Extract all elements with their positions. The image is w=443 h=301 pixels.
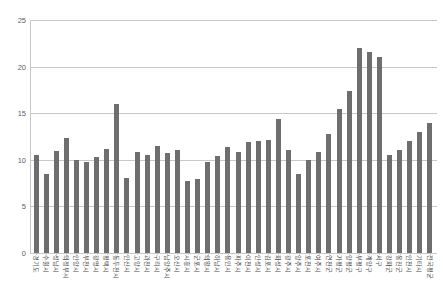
x-category-label: 파주시 (234, 255, 240, 301)
bar (276, 119, 281, 253)
bar (44, 174, 49, 253)
x-category-label: 경기도 (32, 255, 38, 301)
bar (337, 109, 342, 253)
x-category-label: 서구 (376, 255, 382, 301)
gridline-25 (30, 20, 437, 21)
x-category-label: 구리시 (154, 255, 160, 301)
x-category-label: 인천시 (406, 255, 412, 301)
bar (387, 155, 392, 253)
bar (286, 150, 291, 253)
bar (397, 150, 402, 253)
x-category-label: 여주시 (315, 255, 321, 301)
bar (135, 152, 140, 253)
bar (407, 141, 412, 253)
bar-chart: 0510152025 경기도수원시성남시의정부시안양시부천시광명시평택시동두천시… (0, 0, 443, 301)
bar (54, 151, 59, 253)
x-category-label: 부평구 (356, 255, 362, 301)
x-category-label: 군포시 (194, 255, 200, 301)
y-tick-label-20: 20 (8, 62, 26, 71)
x-category-label: 의왕시 (204, 255, 210, 301)
x-category-label: 시흥시 (184, 255, 190, 301)
bar (256, 141, 261, 253)
x-category-label: 가평군 (335, 255, 341, 301)
bar (84, 162, 89, 253)
bar (195, 179, 200, 253)
y-axis-line (30, 20, 31, 253)
x-category-label: 양평군 (346, 255, 352, 301)
x-category-label: 안산시 (123, 255, 129, 301)
x-category-label: 남양주시 (164, 255, 170, 301)
bar (367, 52, 372, 253)
y-tick-label-5: 5 (8, 202, 26, 211)
y-tick-label-25: 25 (8, 16, 26, 25)
x-category-label: 김포시 (265, 255, 271, 301)
bar (417, 132, 422, 253)
bar (124, 178, 129, 253)
plot-area (30, 20, 437, 253)
bar (64, 138, 69, 253)
x-category-label: 화성시 (275, 255, 281, 301)
x-category-label: 옹진군 (396, 255, 402, 301)
x-category-label: 광주시 (285, 255, 291, 301)
gridline-0 (30, 253, 437, 254)
bar (236, 152, 241, 253)
bar (296, 174, 301, 253)
bar (104, 149, 109, 253)
x-category-label: 고양시 (133, 255, 139, 301)
x-category-label: 광명시 (93, 255, 99, 301)
bar (34, 155, 39, 253)
bar (246, 142, 251, 253)
x-category-label: 강화군 (386, 255, 392, 301)
bar (427, 123, 432, 253)
x-category-label: 오산시 (174, 255, 180, 301)
x-category-label: 부천시 (83, 255, 89, 301)
bar (114, 104, 119, 253)
y-tick-label-15: 15 (8, 109, 26, 118)
bar (377, 57, 382, 253)
x-category-label: 성남시 (53, 255, 59, 301)
x-category-label: 기타시 (416, 255, 422, 301)
bar (74, 160, 79, 253)
x-category-label: 안성시 (255, 255, 261, 301)
x-category-label: 계양구 (366, 255, 372, 301)
bar (145, 155, 150, 253)
bar (215, 156, 220, 253)
bar (326, 134, 331, 253)
bar (165, 153, 170, 253)
x-category-label: 포천시 (305, 255, 311, 301)
bar (225, 147, 230, 253)
x-category-label: 과천시 (144, 255, 150, 301)
x-axis-category-labels: 경기도수원시성남시의정부시안양시부천시광명시평택시동두천시안산시고양시과천시구리… (30, 255, 437, 301)
bar (306, 160, 311, 253)
x-category-label: 용인시 (224, 255, 230, 301)
x-category-label: 수원시 (43, 255, 49, 301)
y-tick-label-10: 10 (8, 155, 26, 164)
x-category-label: 전국평균 (426, 255, 432, 301)
x-category-label: 평택시 (103, 255, 109, 301)
bar (94, 157, 99, 253)
bar (347, 91, 352, 253)
x-category-label: 안양시 (73, 255, 79, 301)
bar (316, 152, 321, 253)
y-tick-label-0: 0 (8, 249, 26, 258)
x-category-label: 양주시 (295, 255, 301, 301)
bar (185, 181, 190, 253)
x-category-label: 이천시 (245, 255, 251, 301)
bar (266, 140, 271, 253)
x-category-label: 동두천시 (113, 255, 119, 301)
bar (205, 162, 210, 253)
bar (155, 146, 160, 253)
x-category-label: 연천군 (325, 255, 331, 301)
x-category-label: 의정부시 (63, 255, 69, 301)
bar (357, 48, 362, 253)
bar (175, 150, 180, 253)
x-category-label: 하남시 (214, 255, 220, 301)
